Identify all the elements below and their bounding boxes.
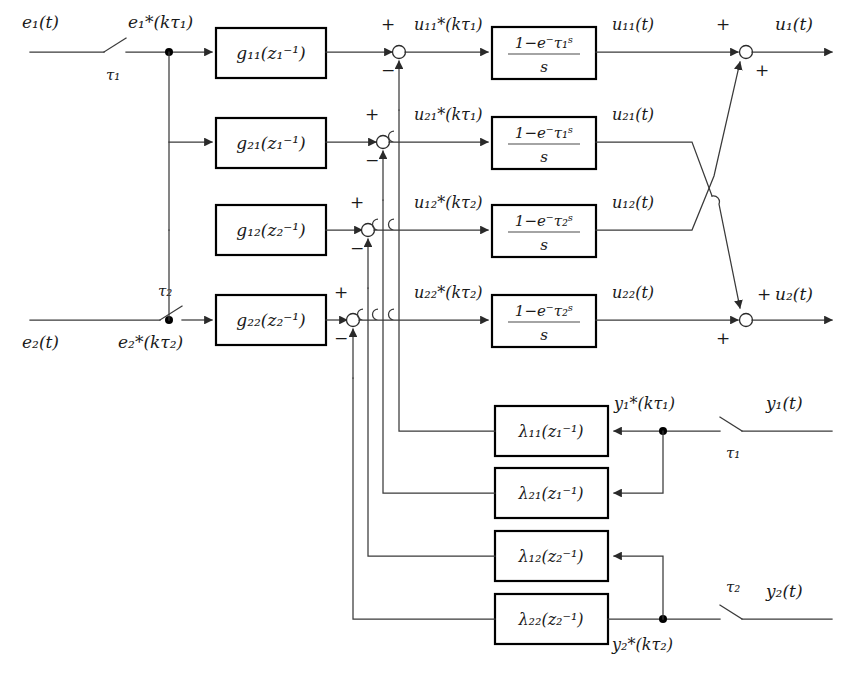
output-y1-group: y₁(t) τ₁ y₁*(kτ₁) — [613, 393, 832, 493]
hold-21-denominator: s — [540, 148, 548, 166]
sum-junction-u21: + − u₂₁*(kτ₁) — [326, 104, 488, 200]
sum-u11-circle — [393, 46, 406, 59]
sampler-y2-tau2-label: τ₂ — [726, 578, 740, 596]
sum-u22-plus: + — [334, 282, 348, 302]
input-e1-sampled-label: e₁*(kτ₁) — [128, 12, 193, 32]
output-y1-sampled-label: y₁*(kτ₁) — [613, 394, 675, 413]
hold-block-12: 1−e⁻τ₂ˢ s — [492, 205, 596, 257]
hold-22-denominator: s — [540, 326, 548, 344]
hold-block-21: 1−e⁻τ₁ˢ s — [492, 117, 596, 169]
hold-block-22: 1−e⁻τ₂ˢ s — [492, 295, 596, 347]
output-y1-label: y₁(t) — [765, 393, 803, 413]
sum-u2-plus-bottom: + — [716, 328, 730, 348]
input-e2-sampled-label: e₂*(kτ₂) — [118, 332, 183, 352]
output-y2-group: y₂(t) τ₂ y₂*(kτ₂) — [608, 556, 832, 654]
sum-u21-circle — [377, 136, 390, 149]
output-u1-label: u₁(t) — [775, 14, 813, 34]
block-g22: g₂₂(z₂⁻¹) — [216, 295, 326, 345]
block-g21-label: g₂₁(z₁⁻¹) — [236, 133, 305, 153]
sum-u1-circle — [740, 46, 753, 59]
u12-crossover-path: u₁₂(t) — [596, 62, 740, 230]
input-e2-group: e₂(t) τ₂ e₂*(kτ₂) — [22, 230, 212, 352]
sum-junction-u12: + − u₁₂*(kτ₂) — [326, 192, 488, 288]
sum-u2-circle — [740, 314, 753, 327]
input-e1-group: e₁(t) τ₁ e₁*(kτ₁) — [22, 12, 212, 230]
output-sum-u2: + + u₂(t) — [716, 284, 832, 348]
block-lambda11-label: λ₁₁(z₁⁻¹) — [517, 422, 583, 441]
u22-out-label: u₂₂(t) — [612, 283, 654, 302]
sum-u1-plus-top: + — [716, 14, 730, 34]
input-e1-label: e₁(t) — [22, 12, 59, 32]
sum-u11-minus: − — [381, 60, 395, 80]
hold-21-numerator: 1−e⁻τ₁ˢ — [515, 124, 573, 142]
block-lambda22-label: λ₂₂(z₂⁻¹) — [517, 610, 583, 629]
input-e2-label: e₂(t) — [22, 332, 59, 352]
u21-out-label: u₂₁(t) — [612, 105, 654, 124]
sum-u21-minus: − — [365, 150, 379, 170]
hold-22-numerator: 1−e⁻τ₂ˢ — [515, 302, 573, 320]
block-lambda21-label: λ₂₁(z₁⁻¹) — [517, 484, 583, 503]
u21-star-label: u₂₁*(kτ₁) — [414, 105, 483, 124]
sum-u22-minus: − — [334, 328, 348, 348]
block-g11: g₁₁(z₁⁻¹) — [216, 28, 326, 78]
output-sum-u1: + + u₁(t) — [716, 14, 832, 80]
output-y2-sampled-label: y₂*(kτ₂) — [611, 635, 673, 654]
block-g11-label: g₁₁(z₁⁻¹) — [236, 43, 305, 63]
hold-block-11: 1−e⁻τ₁ˢ s — [492, 27, 596, 79]
block-g12-label: g₁₂(z₂⁻¹) — [236, 220, 305, 240]
output-y2-label: y₂(t) — [765, 581, 803, 601]
sampler-tau1-label: τ₁ — [106, 66, 120, 84]
u22-star-label: u₂₂*(kτ₂) — [414, 283, 483, 302]
block-g22-label: g₂₂(z₂⁻¹) — [236, 310, 305, 330]
u12-star-label: u₁₂*(kτ₂) — [414, 193, 483, 212]
block-lambda12-label: λ₁₂(z₂⁻¹) — [517, 547, 583, 566]
hold-12-denominator: s — [540, 236, 548, 254]
u12-out-label: u₁₂(t) — [612, 193, 654, 212]
hold-11-numerator: 1−e⁻τ₁ˢ — [515, 34, 573, 52]
block-g12: g₁₂(z₂⁻¹) — [216, 205, 326, 255]
block-g21: g₂₁(z₁⁻¹) — [216, 118, 326, 168]
sum-u11-plus: + — [381, 14, 395, 34]
output-u2-label: u₂(t) — [775, 284, 813, 304]
block-diagram-canvas: e₁(t) τ₁ e₁*(kτ₁) g₁₁(z₁⁻¹) + − u₁₁*(kτ₁… — [0, 0, 845, 686]
sampler-y1-tau1-label: τ₁ — [726, 444, 740, 462]
u11-out-label: u₁₁(t) — [612, 15, 654, 34]
hold-12-numerator: 1−e⁻τ₂ˢ — [515, 212, 573, 230]
sum-u12-minus: − — [350, 238, 364, 258]
sum-u2-plus-top: + — [757, 284, 771, 304]
sum-u1-plus-bottom: + — [755, 60, 769, 80]
sum-u21-plus: + — [365, 104, 379, 124]
sum-junction-u11: + − u₁₁*(kτ₁) — [326, 14, 488, 110]
sum-junction-u22: + − u₂₂*(kτ₂) — [326, 282, 488, 378]
u11-star-label: u₁₁*(kτ₁) — [414, 15, 483, 34]
sampler-tau2-label: τ₂ — [158, 282, 172, 300]
sum-u12-plus: + — [350, 192, 364, 212]
u22-output-path: u₂₂(t) — [596, 283, 738, 320]
hold-11-denominator: s — [540, 58, 548, 76]
